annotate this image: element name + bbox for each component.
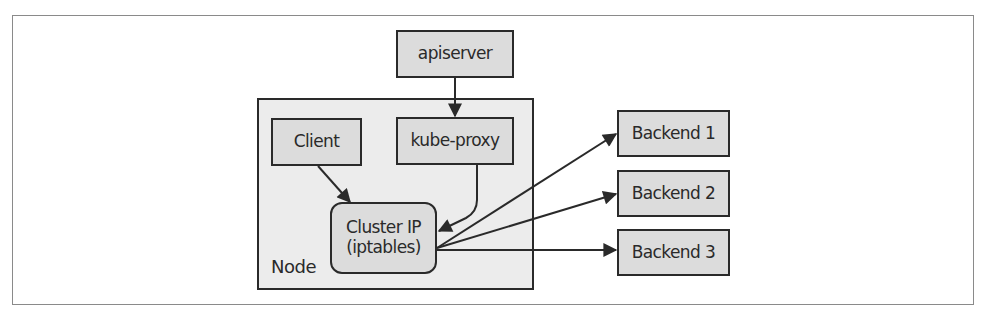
backend-1-box: Backend 1 <box>617 110 730 157</box>
backend-2-label: Backend 2 <box>632 184 716 204</box>
cluster-ip-sublabel: (iptables) <box>346 238 421 258</box>
cluster-ip-box: Cluster IP (iptables) <box>330 202 437 274</box>
backend-3-box: Backend 3 <box>617 229 730 276</box>
client-label: Client <box>294 132 340 152</box>
kube-proxy-box: kube-proxy <box>396 117 514 165</box>
apiserver-box: apiserver <box>396 30 514 78</box>
kube-proxy-label: kube-proxy <box>411 131 500 151</box>
backend-1-label: Backend 1 <box>632 124 716 144</box>
backend-2-box: Backend 2 <box>617 170 730 217</box>
apiserver-label: apiserver <box>418 44 492 64</box>
backend-3-label: Backend 3 <box>632 243 716 263</box>
client-box: Client <box>271 118 362 166</box>
node-group-label: Node <box>271 256 316 277</box>
cluster-ip-label: Cluster IP <box>346 218 421 238</box>
